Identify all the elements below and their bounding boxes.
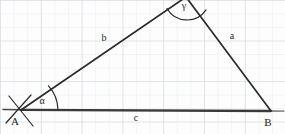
side-a-label: a — [230, 30, 235, 41]
geometry-diagram-canvas: α γ a b c A B — [0, 0, 285, 134]
side-c-label: c — [134, 112, 139, 123]
vertex-a-label: A — [11, 115, 19, 127]
angle-alpha-label: α — [39, 95, 45, 106]
grid-major-lines — [0, 0, 285, 134]
angle-gamma-label: γ — [181, 0, 187, 11]
vertex-b-label: B — [264, 116, 271, 128]
triangle-diagram-svg: α γ a b c A B — [0, 0, 285, 134]
side-b-label: b — [102, 32, 107, 43]
